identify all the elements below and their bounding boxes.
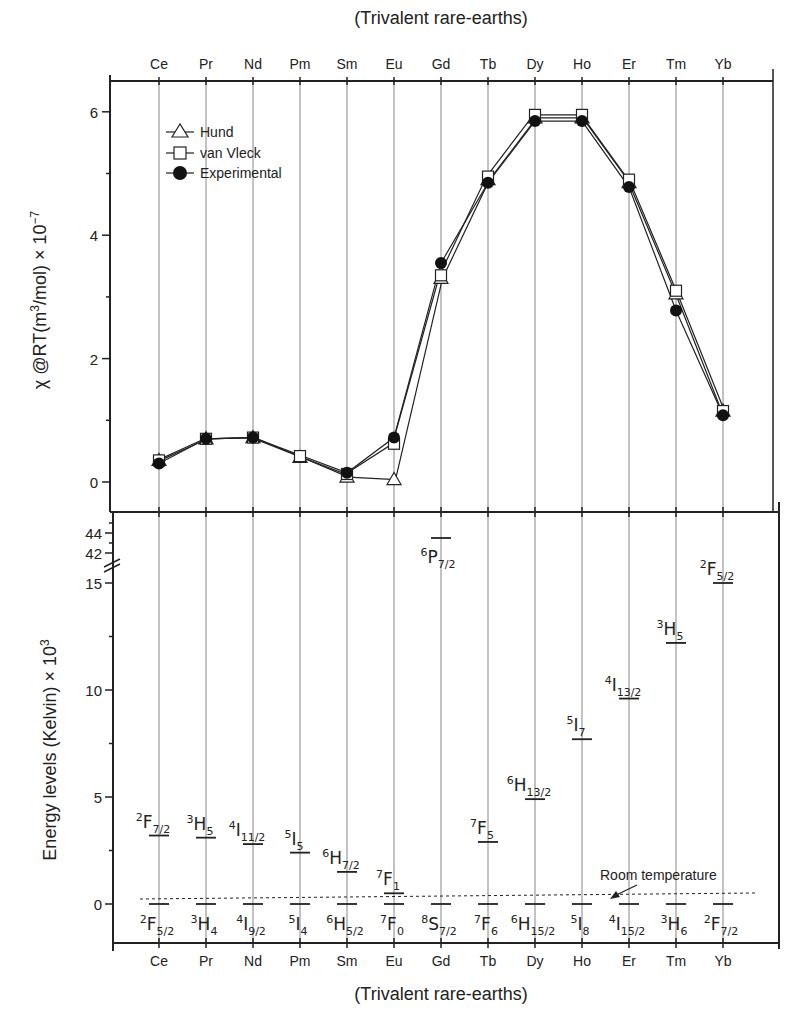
circle-marker bbox=[153, 457, 165, 469]
term-symbol: 7F0 bbox=[380, 913, 404, 938]
element-label-bottom: Eu bbox=[385, 953, 402, 969]
element-label-bottom: Dy bbox=[526, 953, 543, 969]
element-label-bottom: Tm bbox=[666, 953, 686, 969]
element-label-bottom: Er bbox=[622, 953, 636, 969]
term-symbol: 6H5/2 bbox=[326, 913, 364, 938]
term-symbol: 8S7/2 bbox=[421, 913, 457, 938]
element-label-bottom: Nd bbox=[244, 953, 262, 969]
circle-marker bbox=[529, 115, 541, 127]
element-label-bottom: Sm bbox=[337, 953, 358, 969]
term-symbol: 6P7/2 bbox=[421, 546, 456, 571]
axis-labels: 02460510154244CeCePrPrNdNdPmPmSmSmEuEuGd… bbox=[28, 56, 732, 1004]
element-label-top: Sm bbox=[337, 56, 358, 72]
circle-marker bbox=[623, 181, 635, 193]
room-temperature-line bbox=[140, 893, 755, 899]
term-symbol: 2F7/2 bbox=[704, 913, 738, 938]
term-symbol: 6H13/2 bbox=[507, 774, 552, 799]
energy-levels: 2F5/23H44I9/25I46H5/27F08S7/27F66H15/25I… bbox=[136, 538, 755, 938]
arrow-icon bbox=[610, 891, 620, 899]
term-symbol: 4I11/2 bbox=[229, 819, 266, 844]
term-symbol: 7F6 bbox=[474, 913, 498, 938]
circle-marker bbox=[200, 433, 212, 445]
triangle-marker bbox=[387, 473, 401, 485]
element-label-bottom: Pm bbox=[290, 953, 311, 969]
legend-label: Hund bbox=[200, 124, 233, 140]
lower-y-axis-title: Energy levels (Kelvin) × 103 bbox=[38, 639, 60, 861]
term-symbol: 2F5/2 bbox=[700, 558, 734, 583]
triangle-icon bbox=[172, 124, 188, 137]
y-tick-label: 4 bbox=[90, 227, 98, 244]
element-label-top: Tb bbox=[480, 56, 497, 72]
term-symbol: 3H6 bbox=[661, 913, 688, 938]
legend-label: Experimental bbox=[200, 165, 282, 181]
square-marker bbox=[295, 451, 306, 462]
term-symbol: 5I5 bbox=[284, 828, 303, 853]
element-label-bottom: Tb bbox=[480, 953, 497, 969]
element-label-bottom: Yb bbox=[714, 953, 731, 969]
term-symbol: 6H7/2 bbox=[322, 847, 360, 872]
element-label-bottom: Ho bbox=[573, 953, 591, 969]
circle-marker bbox=[482, 177, 494, 189]
circle-marker bbox=[247, 432, 259, 444]
element-label-top: Dy bbox=[526, 56, 543, 72]
term-symbol: 7F5 bbox=[470, 817, 494, 842]
term-symbol: 3H5 bbox=[187, 813, 214, 838]
element-label-top: Tm bbox=[666, 56, 686, 72]
circle-marker bbox=[388, 432, 400, 444]
circle-icon bbox=[173, 166, 187, 180]
y-tick-label: 42 bbox=[85, 545, 102, 562]
element-label-top: Ce bbox=[150, 56, 168, 72]
top-title: (Trivalent rare-earths) bbox=[354, 8, 527, 28]
element-label-top: Er bbox=[622, 56, 636, 72]
element-label-top: Nd bbox=[244, 56, 262, 72]
y-tick-label: 5 bbox=[94, 789, 102, 806]
y-tick-label: 2 bbox=[90, 351, 98, 368]
upper-y-axis-title: χ @RT(m3/mol) × 10−7 bbox=[28, 211, 50, 390]
bottom-title: (Trivalent rare-earths) bbox=[354, 984, 527, 1004]
term-symbol: 7F1 bbox=[376, 868, 400, 893]
term-symbol: 5I8 bbox=[570, 913, 589, 938]
y-tick-label: 0 bbox=[90, 474, 98, 491]
term-symbol: 3H4 bbox=[191, 913, 218, 938]
term-symbol: 3H5 bbox=[657, 618, 684, 643]
y-tick-label: 0 bbox=[94, 896, 102, 913]
element-label-bottom: Gd bbox=[432, 953, 451, 969]
term-symbol: 5I7 bbox=[566, 714, 585, 739]
top-axis-title: (Trivalent rare-earths) bbox=[354, 8, 527, 28]
term-symbol: 2F5/2 bbox=[140, 913, 174, 938]
term-symbol: 4I9/2 bbox=[236, 913, 266, 938]
element-label-bottom: Pr bbox=[199, 953, 213, 969]
circle-marker bbox=[576, 115, 588, 127]
circle-marker bbox=[341, 467, 353, 479]
square-marker bbox=[436, 270, 447, 281]
element-label-bottom: Ce bbox=[150, 953, 168, 969]
term-symbol: 2F7/2 bbox=[136, 811, 170, 836]
element-label-top: Yb bbox=[714, 56, 731, 72]
y-tick-label: 10 bbox=[85, 682, 102, 699]
square-icon bbox=[174, 147, 186, 159]
term-symbol: 5I4 bbox=[288, 913, 307, 938]
element-label-top: Eu bbox=[385, 56, 402, 72]
figure: (Trivalent rare-earths) Hundvan VleckExp… bbox=[0, 0, 805, 1022]
y-tick-label: 6 bbox=[90, 104, 98, 121]
term-symbol: 4I15/2 bbox=[609, 913, 646, 938]
element-label-top: Gd bbox=[432, 56, 451, 72]
room-temperature-label: Room temperature bbox=[600, 867, 717, 883]
element-label-top: Ho bbox=[573, 56, 591, 72]
element-label-top: Pr bbox=[199, 56, 213, 72]
legend: Hundvan VleckExperimental bbox=[166, 124, 282, 181]
term-symbol: 6H15/2 bbox=[511, 913, 556, 938]
circle-marker bbox=[670, 304, 682, 316]
legend-label: van Vleck bbox=[200, 145, 262, 161]
square-marker bbox=[671, 285, 682, 296]
circle-marker bbox=[435, 257, 447, 269]
y-tick-label: 44 bbox=[85, 525, 102, 542]
y-tick-label: 15 bbox=[85, 575, 102, 592]
circle-marker bbox=[717, 409, 729, 421]
term-symbol: 4I13/2 bbox=[605, 674, 642, 699]
element-label-top: Pm bbox=[290, 56, 311, 72]
